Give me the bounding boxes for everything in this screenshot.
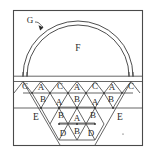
- lattice-cell-r1c2: A: [38, 82, 45, 92]
- diagram-canvas: F G C A C A C A C: [0, 0, 152, 153]
- lattice-cell-r2c4: A: [92, 97, 99, 107]
- node-dot: [94, 107, 96, 109]
- lattice-cell-r4c1: D: [60, 128, 67, 138]
- node-dot: [58, 107, 60, 109]
- lattice-cell-r2c5: B: [108, 94, 114, 104]
- callout-G-group: G: [27, 15, 44, 31]
- lattice-cell-r1c5: C: [92, 81, 98, 91]
- node-dot: [85, 92, 87, 94]
- technical-diagram-figure: F G C A C A C A C: [0, 0, 152, 153]
- lattice-cell-r2c2: A: [56, 97, 63, 107]
- callout-arrowhead-icon: [39, 25, 44, 30]
- node-dot: [112, 107, 114, 109]
- lattice-labels-row4: D B D: [60, 126, 95, 138]
- lattice-cell-r4c3: D: [88, 128, 95, 138]
- node-dot: [94, 123, 96, 125]
- lattice-labels-row3: B A B: [58, 110, 96, 123]
- node-dot: [67, 92, 69, 94]
- lattice-cell-r1c1: C: [22, 81, 28, 91]
- node-dot: [40, 107, 42, 109]
- deck-band-group: [14, 76, 142, 81]
- lattice-cell-r3c2: A: [74, 113, 81, 123]
- lattice-cell-r2c3: B: [74, 94, 80, 104]
- lattice-labels-row2: B A B A B: [40, 94, 114, 107]
- lattice-cell-r2c1: B: [40, 94, 46, 104]
- node-dot: [58, 123, 60, 125]
- node-dot: [121, 92, 123, 94]
- label-region-F: F: [75, 43, 80, 53]
- node-dot: [31, 92, 33, 94]
- label-callout-G: G: [27, 15, 34, 25]
- lattice-cell-r3c3: B: [90, 110, 96, 120]
- label-region-E-left: E: [33, 112, 39, 122]
- lattice-cell-r3c1: B: [58, 110, 64, 120]
- node-dot: [103, 92, 105, 94]
- lattice-cell-r4c2: B: [74, 126, 80, 136]
- node-dot: [49, 92, 51, 94]
- stray-mark: [122, 133, 123, 134]
- lattice-cell-r1c6: A: [109, 82, 116, 92]
- label-region-E-right: E: [117, 112, 123, 122]
- node-dot: [76, 123, 78, 125]
- lattice-cell-r1c4: A: [74, 82, 81, 92]
- lattice-cell-r1c3: C: [57, 81, 63, 91]
- node-dot: [76, 107, 78, 109]
